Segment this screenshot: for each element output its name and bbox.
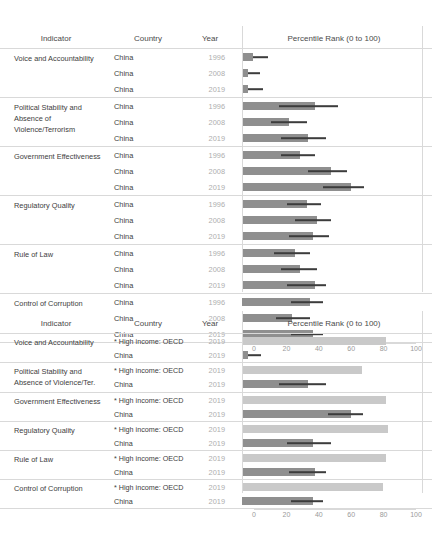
year-label: 2019 <box>184 366 236 375</box>
bar-cell <box>236 212 432 228</box>
group-rows: * High income: OECD2019China2019 <box>112 393 432 421</box>
header-year: Year <box>184 34 236 48</box>
table-row[interactable]: China1996 <box>112 147 432 163</box>
indicator-group: Rule of Law* High income: OECD2019China2… <box>0 451 432 480</box>
table2-header-row: Indicator Country Year Percentile Rank (… <box>0 307 432 333</box>
table-row[interactable]: * High income: OECD2019 <box>112 480 432 494</box>
country-label: * High income: OECD <box>112 396 184 405</box>
table-row[interactable]: China2019 <box>112 179 432 195</box>
country-label: China <box>112 200 184 209</box>
country-label: China <box>112 265 184 274</box>
indicator-group: Government Effectiveness* High income: O… <box>0 393 432 422</box>
table-row[interactable]: China1996 <box>112 196 432 212</box>
indicator-label: Political Stability and Absence of Viole… <box>0 98 112 146</box>
table-row[interactable]: China1996 <box>112 98 432 114</box>
table1-body: Voice and AccountabilityChina1996China20… <box>0 49 432 343</box>
year-label: 2019 <box>184 380 236 389</box>
table2-chart-right-border <box>422 311 423 493</box>
year-label: 2019 <box>184 483 236 492</box>
table-row[interactable]: China2008 <box>112 114 432 130</box>
country-label: China <box>112 183 184 192</box>
table-row[interactable]: China2019 <box>112 465 432 479</box>
table-row[interactable]: China2019 <box>112 228 432 244</box>
error-bar <box>271 121 307 123</box>
indicator-group: Rule of LawChina1996China2008China2019 <box>0 245 432 294</box>
error-bar <box>328 413 364 415</box>
year-label: 2008 <box>184 69 236 78</box>
year-label: 2019 <box>184 497 236 506</box>
group-rows: China1996China2008China2019 <box>112 245 432 293</box>
bar-cell <box>236 65 432 81</box>
value-bar[interactable] <box>242 53 253 61</box>
indicator-label: Political Stability and Absence of Viole… <box>0 363 112 392</box>
year-label: 2019 <box>184 183 236 192</box>
year-label: 2019 <box>184 396 236 405</box>
table-row[interactable]: China2008 <box>112 163 432 179</box>
bar-cell <box>236 393 432 407</box>
table-row[interactable]: * High income: OECD2019 <box>112 363 432 377</box>
value-bar[interactable] <box>242 396 386 404</box>
year-label: 2019 <box>184 425 236 434</box>
country-label: China <box>112 102 184 111</box>
table-row[interactable]: * High income: OECD2019 <box>112 334 432 348</box>
indicator-label: Government Effectiveness <box>0 393 112 421</box>
year-label: 2019 <box>184 232 236 241</box>
bar-cell <box>236 245 432 261</box>
error-bar <box>279 383 326 385</box>
error-bar <box>281 268 317 270</box>
value-bar[interactable] <box>242 337 386 345</box>
table-row[interactable]: China2019 <box>112 348 432 362</box>
value-bar[interactable] <box>242 366 362 374</box>
table-row[interactable]: China2019 <box>112 81 432 97</box>
header-indicator: Indicator <box>0 319 112 333</box>
group-rows: * High income: OECD2019China2019 <box>112 334 432 362</box>
indicator-label: Voice and Accountability <box>0 334 112 362</box>
bar-cell <box>236 465 432 479</box>
country-label: China <box>112 232 184 241</box>
table-row[interactable]: China2008 <box>112 212 432 228</box>
table1-chart-left-border <box>242 26 243 292</box>
bar-cell <box>236 422 432 436</box>
table-row[interactable]: China2019 <box>112 377 432 391</box>
value-bar[interactable] <box>242 483 383 491</box>
country-label: * High income: OECD <box>112 483 184 492</box>
year-label: 2019 <box>184 134 236 143</box>
error-bar <box>248 72 259 74</box>
year-label: 2019 <box>184 468 236 477</box>
error-bar <box>248 88 263 90</box>
error-bar <box>291 500 323 502</box>
year-label: 2019 <box>184 410 236 419</box>
bar-cell <box>236 196 432 212</box>
table-row[interactable]: China2019 <box>112 130 432 146</box>
table-row[interactable]: China2019 <box>112 277 432 293</box>
table-row[interactable]: China1996 <box>112 49 432 65</box>
table-row[interactable]: China2008 <box>112 65 432 81</box>
table-row[interactable]: China2019 <box>112 436 432 450</box>
indicator-label: Regulatory Quality <box>0 422 112 450</box>
indicator-group: Regulatory Quality* High income: OECD201… <box>0 422 432 451</box>
country-label: * High income: OECD <box>112 454 184 463</box>
table-row[interactable]: * High income: OECD2019 <box>112 422 432 436</box>
header-percentile-rank: Percentile Rank (0 to 100) <box>236 34 432 48</box>
table-row[interactable]: China2019 <box>112 407 432 421</box>
indicator-group: Control of Corruption* High income: OECD… <box>0 480 432 509</box>
error-bar <box>289 471 326 473</box>
axis-tick-label: 60 <box>347 511 355 518</box>
bar-cell <box>236 451 432 465</box>
table1-header-row: Indicator Country Year Percentile Rank (… <box>0 22 432 48</box>
table-row[interactable]: * High income: OECD2019 <box>112 451 432 465</box>
value-bar[interactable] <box>242 425 388 433</box>
error-bar <box>289 235 330 237</box>
bar-cell <box>236 228 432 244</box>
year-label: 1996 <box>184 249 236 258</box>
value-bar[interactable] <box>242 454 386 462</box>
group-rows: China1996China2008China2019 <box>112 147 432 195</box>
bar-cell <box>236 130 432 146</box>
table-row[interactable]: China2008 <box>112 261 432 277</box>
table-row[interactable]: China2019 <box>112 494 432 508</box>
indicator-label: Voice and Accountability <box>0 49 112 97</box>
year-label: 1996 <box>184 102 236 111</box>
indicator-label: Government Effectiveness <box>0 147 112 195</box>
table-row[interactable]: China1996 <box>112 245 432 261</box>
table-row[interactable]: * High income: OECD2019 <box>112 393 432 407</box>
